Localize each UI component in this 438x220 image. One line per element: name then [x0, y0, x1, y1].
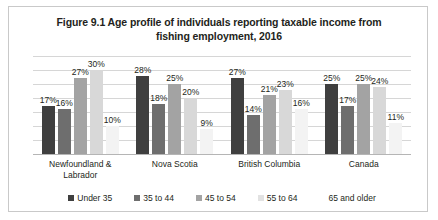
bar-group-bars: 28%18%25%20%9%	[128, 56, 223, 154]
bar-group-bars: 17%16%27%30%10%	[33, 56, 128, 154]
bar-value-label: 27%	[229, 67, 246, 77]
bar-rect[interactable]	[295, 109, 308, 154]
bar-value-label: 25%	[323, 73, 340, 83]
legend-label: 35 to 44	[143, 193, 174, 203]
bar-group-bars: 25%17%25%24%11%	[317, 56, 412, 154]
bar-group: 25%17%25%24%11%	[317, 56, 412, 154]
legend-swatch-icon	[68, 195, 74, 201]
bar-rect[interactable]	[389, 123, 402, 154]
legend-label: 45 to 54	[205, 193, 236, 203]
legend-item[interactable]: 65 and older	[319, 193, 375, 203]
bar-item[interactable]: 17%	[341, 56, 354, 154]
legend-item[interactable]: 55 to 64	[258, 193, 298, 203]
bar-item[interactable]: 23%	[279, 56, 292, 154]
bar-value-label: 30%	[88, 59, 105, 69]
bar-group: 28%18%25%20%9%	[128, 56, 223, 154]
legend-label: Under 35	[77, 193, 112, 203]
legend-label: 55 to 64	[267, 193, 298, 203]
bar-group: 17%16%27%30%10%	[33, 56, 128, 154]
bar-rect[interactable]	[231, 78, 244, 154]
bar-item[interactable]: 20%	[184, 56, 197, 154]
bar-rect[interactable]	[136, 76, 149, 154]
bar-item[interactable]: 27%	[74, 56, 87, 154]
legend-swatch-icon	[196, 195, 202, 201]
bar-item[interactable]: 21%	[263, 56, 276, 154]
bar-rect[interactable]	[184, 98, 197, 154]
legend-swatch-icon	[134, 195, 140, 201]
bar-item[interactable]: 14%	[247, 56, 260, 154]
chart-title-line-2: fishing employment, 2016	[23, 29, 415, 43]
legend-item[interactable]: 45 to 54	[196, 193, 236, 203]
bar-value-label: 16%	[56, 98, 73, 108]
bar-rect[interactable]	[90, 70, 103, 154]
bar-item[interactable]: 16%	[295, 56, 308, 154]
bar-value-label: 23%	[277, 79, 294, 89]
category-label: Newfoundland & Labrador	[33, 159, 128, 180]
bar-value-label: 27%	[72, 67, 89, 77]
legend-swatch-icon	[319, 195, 325, 201]
chart-legend: Under 3535 to 4445 to 5455 to 6465 and o…	[33, 193, 411, 203]
bar-rect[interactable]	[247, 115, 260, 154]
category-label: British Columbia	[222, 159, 317, 170]
bar-item[interactable]: 27%	[231, 56, 244, 154]
legend-swatch-icon	[258, 195, 264, 201]
bar-rect[interactable]	[325, 84, 338, 154]
bar-group-bars: 27%14%21%23%16%	[222, 56, 317, 154]
bar-item[interactable]: 30%	[90, 56, 103, 154]
bar-item[interactable]: 9%	[200, 56, 213, 154]
x-axis-line	[33, 154, 411, 155]
bar-value-label: 10%	[104, 115, 121, 125]
bar-group: 27%14%21%23%16%	[222, 56, 317, 154]
bar-value-label: 20%	[182, 87, 199, 97]
bar-rect[interactable]	[373, 87, 386, 154]
bar-value-label: 28%	[134, 65, 151, 75]
bar-value-label: 25%	[355, 73, 372, 83]
category-label: Nova Scotia	[128, 159, 223, 170]
bar-rect[interactable]	[42, 106, 55, 154]
bar-value-label: 17%	[40, 95, 57, 105]
bar-rect[interactable]	[279, 90, 292, 154]
bar-rect[interactable]	[200, 129, 213, 154]
category-label: Canada	[317, 159, 412, 170]
bar-value-label: 24%	[371, 76, 388, 86]
legend-label: 65 and older	[328, 193, 375, 203]
bar-value-label: 9%	[201, 118, 213, 128]
bar-rect[interactable]	[74, 78, 87, 154]
bar-rect[interactable]	[168, 84, 181, 154]
bar-item[interactable]: 11%	[389, 56, 402, 154]
chart-title: Figure 9.1 Age profile of individuals re…	[23, 15, 415, 43]
bar-rect[interactable]	[263, 95, 276, 154]
bar-value-label: 21%	[261, 84, 278, 94]
bar-item[interactable]: 24%	[373, 56, 386, 154]
legend-item[interactable]: 35 to 44	[134, 193, 174, 203]
bar-value-label: 14%	[245, 104, 262, 114]
bar-value-label: 16%	[293, 98, 310, 108]
bar-item[interactable]: 25%	[168, 56, 181, 154]
bar-item[interactable]: 25%	[325, 56, 338, 154]
bar-value-label: 17%	[339, 95, 356, 105]
bar-item[interactable]: 28%	[136, 56, 149, 154]
bar-item[interactable]: 10%	[106, 56, 119, 154]
bar-rect[interactable]	[152, 104, 165, 154]
bar-item[interactable]: 16%	[58, 56, 71, 154]
bar-item[interactable]: 17%	[42, 56, 55, 154]
bar-rect[interactable]	[341, 106, 354, 154]
bar-rect[interactable]	[357, 84, 370, 154]
figure-container: Figure 9.1 Age profile of individuals re…	[8, 6, 428, 212]
legend-item[interactable]: Under 35	[68, 193, 112, 203]
bar-rect[interactable]	[106, 126, 119, 154]
bar-value-label: 18%	[150, 93, 167, 103]
bar-value-label: 11%	[388, 112, 404, 122]
chart-title-line-1: Figure 9.1 Age profile of individuals re…	[23, 15, 415, 29]
bar-value-label: 25%	[166, 73, 183, 83]
bar-item[interactable]: 25%	[357, 56, 370, 154]
bar-item[interactable]: 18%	[152, 56, 165, 154]
bar-rect[interactable]	[58, 109, 71, 154]
